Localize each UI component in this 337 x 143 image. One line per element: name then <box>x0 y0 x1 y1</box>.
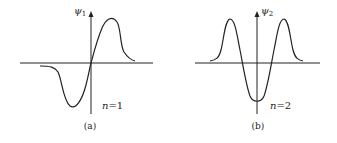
n-annotation-a: n=1 <box>102 100 123 111</box>
y-label-b: ψ2 <box>261 5 273 18</box>
panel-a: ψ1 n=1 (a) <box>20 5 153 131</box>
caption-b: (b) <box>252 121 265 131</box>
wavefunction-diagram: ψ1 n=1 (a) ψ2 n=2 (b) <box>0 0 337 143</box>
caption-a: (a) <box>84 121 96 131</box>
panel-b: ψ2 n=2 (b) <box>195 5 320 131</box>
y-axis-arrow-a-icon <box>89 11 94 17</box>
n-annotation-b: n=2 <box>270 100 291 111</box>
y-label-a: ψ1 <box>74 5 86 18</box>
y-axis-arrow-b-icon <box>255 11 260 17</box>
